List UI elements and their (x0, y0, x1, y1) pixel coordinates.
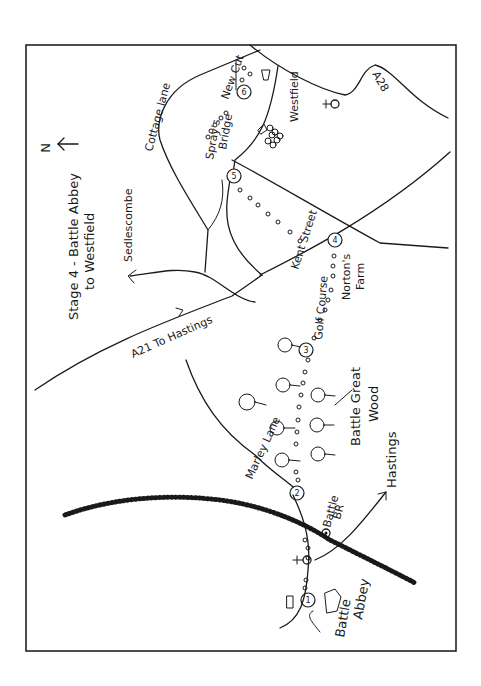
road-cottage-lane-label: Cottage lane (142, 81, 173, 153)
tree-icons (239, 338, 335, 467)
road-hastings-label: Hastings (384, 431, 399, 488)
place-battle-abbey-2: Abbey (350, 577, 372, 620)
svg-text:4: 4 (332, 236, 337, 245)
place-nortons-farm-2: Farm (354, 263, 367, 290)
pub-icon-battle (287, 596, 293, 608)
pub-icon (262, 70, 270, 80)
road-westfield (232, 66, 278, 180)
place-battle-great-wood-2: Wood (366, 386, 381, 422)
road-a21-east (260, 152, 450, 275)
place-golf-course: Golf Course (312, 275, 331, 340)
road-a28-label: A28 (369, 69, 391, 94)
svg-text:1: 1 (305, 596, 310, 605)
railway-line (65, 497, 415, 583)
road-sedlescombe (130, 270, 255, 302)
svg-text:5: 5 (231, 172, 236, 181)
route-map: N Stage 4 - Battle Abbey to Westfield A2… (0, 0, 481, 686)
place-battle-great-wood-1: Battle Great (348, 367, 363, 446)
place-nortons-farm-1: Norton's (340, 253, 353, 300)
svg-text:6: 6 (241, 88, 246, 97)
road-to-a21 (227, 180, 262, 275)
road-sedlescombe-label: Sedlescombe (122, 188, 135, 262)
sedlescombe-arrow (128, 270, 136, 283)
road-cottage-lane (159, 50, 260, 272)
road-marley-lane-label: Marley Lane (243, 415, 283, 482)
road-fork (208, 180, 223, 230)
map-title-line1: Stage 4 - Battle Abbey (66, 173, 81, 320)
stop-marker-6: 6 (237, 85, 251, 99)
map-title-line2: to Westfield (82, 213, 97, 290)
north-arrow (58, 138, 78, 150)
stop-marker-5: 5 (227, 169, 241, 183)
svg-text:2: 2 (294, 489, 299, 498)
map-frame (26, 45, 456, 651)
stop-marker-3: 3 (299, 343, 313, 357)
road-a28 (250, 45, 448, 118)
svg-text:3: 3 (303, 346, 308, 355)
north-label: N (38, 143, 53, 153)
stop-marker-4: 4 (328, 233, 342, 247)
road-kent-street-label: Kent Street (288, 208, 320, 271)
place-westfield: Westfield (288, 71, 301, 122)
stop-marker-2: 2 (290, 486, 304, 500)
place-battle-br-2: BR (330, 502, 347, 520)
church-icon-westfield (323, 100, 339, 108)
abbey-pointer-arrow (309, 611, 320, 632)
